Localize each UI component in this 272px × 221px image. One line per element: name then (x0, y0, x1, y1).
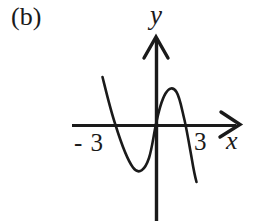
figure-panel: (b) y x - 3 3 (0, 0, 272, 221)
cubic-curve (103, 77, 197, 182)
panel-label: (b) (11, 4, 41, 30)
plot-canvas (0, 0, 272, 221)
x-tick-label-positive-3: 3 (194, 129, 207, 154)
y-axis-label: y (150, 2, 162, 29)
x-axis-label: x (226, 128, 238, 154)
x-tick-label-negative-3: - 3 (74, 130, 104, 155)
